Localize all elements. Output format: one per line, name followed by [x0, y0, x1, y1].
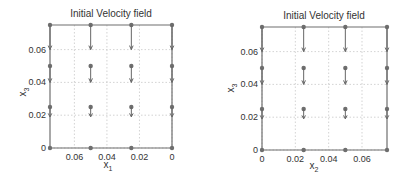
y-tick-label: 0.06	[28, 45, 46, 55]
chart-title: Initial Velocity field	[283, 10, 365, 21]
x-tick-label: 0.02	[287, 154, 305, 164]
x-axis-label: x2	[310, 160, 319, 173]
quiver-plot-right: Initial Velocity field 00.020.040.06 00.…	[200, 0, 404, 181]
y-tick-label: 0.04	[28, 77, 46, 87]
grid-point-marker	[301, 148, 305, 152]
y-tick-label: 0	[41, 143, 46, 153]
y-axis-ticks: 00.020.040.06	[240, 47, 258, 155]
grid-point-marker	[170, 146, 174, 150]
x-axis-ticks: 00.020.040.06	[259, 154, 370, 164]
y-axis-label: x3	[17, 87, 30, 96]
velocity-arrows	[260, 25, 389, 152]
grid-point-marker	[129, 146, 133, 150]
grid-point-marker	[88, 146, 92, 150]
y-tick-label: 0.06	[240, 47, 258, 57]
quiver-plot-left: Initial Velocity field 0.060.040.020 00.…	[0, 0, 200, 181]
chart-title: Initial Velocity field	[70, 8, 152, 19]
axes-frame	[262, 27, 387, 150]
y-tick-label: 0.04	[240, 79, 258, 89]
grid-point-marker	[48, 146, 52, 150]
chart-left-x1-x3: Initial Velocity field 0.060.040.020 00.…	[0, 0, 200, 181]
x-tick-label: 0	[259, 154, 264, 164]
axes-frame	[50, 25, 172, 148]
x-axis-ticks: 0.060.040.020	[66, 152, 175, 162]
grid-lines	[262, 27, 387, 150]
x-tick-label: 0.06	[66, 152, 84, 162]
y-axis-label: x3	[225, 83, 238, 92]
velocity-arrows	[48, 23, 174, 150]
grid-point-marker	[260, 148, 264, 152]
grid-lines	[50, 25, 172, 148]
y-axis-ticks: 00.020.040.06	[28, 45, 46, 153]
y-tick-label: 0	[253, 145, 258, 155]
grid-point-marker	[343, 148, 347, 152]
x-tick-label: 0.06	[353, 154, 371, 164]
y-tick-label: 0.02	[240, 112, 258, 122]
x-tick-label: 0.04	[320, 154, 338, 164]
chart-right-x2-x3: Initial Velocity field 00.020.040.06 00.…	[200, 0, 404, 181]
grid-point-marker	[385, 148, 389, 152]
x-tick-label: 0	[169, 152, 174, 162]
y-tick-label: 0.02	[28, 110, 46, 120]
x-tick-label: 0.02	[131, 152, 149, 162]
